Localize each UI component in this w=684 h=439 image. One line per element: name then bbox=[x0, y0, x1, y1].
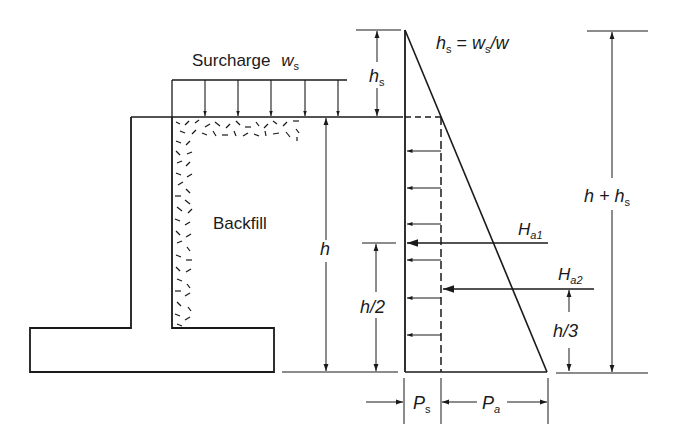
pressure-diagram bbox=[405, 30, 547, 372]
hs-formula: hs = ws/w bbox=[436, 33, 510, 55]
dimension-Ps-Pa: Ps Pa bbox=[366, 378, 548, 424]
svg-text:Ha1: Ha1 bbox=[518, 220, 543, 241]
svg-text:h + hs: h + hs bbox=[584, 186, 631, 208]
dimension-h-plus-hs: h + hs bbox=[584, 31, 648, 372]
svg-text:h/2: h/2 bbox=[360, 297, 385, 317]
retaining-wall-diagram: Surcharge ws bbox=[0, 0, 684, 439]
svg-text:hs: hs bbox=[369, 66, 385, 88]
dimension-h-half: h/2 bbox=[360, 243, 396, 371]
dimension-h-third: h/3 bbox=[553, 290, 648, 373]
resultant-force-Ha2: Ha2 bbox=[443, 265, 594, 289]
svg-text:Ha2: Ha2 bbox=[558, 265, 583, 286]
surcharge-load-arrows bbox=[172, 80, 347, 117]
surcharge-label: Surcharge ws bbox=[192, 51, 299, 72]
backfill-label: Backfill bbox=[213, 214, 267, 233]
svg-text:h/3: h/3 bbox=[553, 321, 578, 341]
svg-text:h: h bbox=[320, 239, 330, 259]
Pa-label: Pa bbox=[482, 393, 500, 415]
dimension-h: h bbox=[282, 118, 398, 372]
retaining-wall-outline bbox=[30, 117, 274, 372]
dimension-hs: hs bbox=[356, 30, 401, 116]
Ps-label: Ps bbox=[413, 393, 431, 415]
